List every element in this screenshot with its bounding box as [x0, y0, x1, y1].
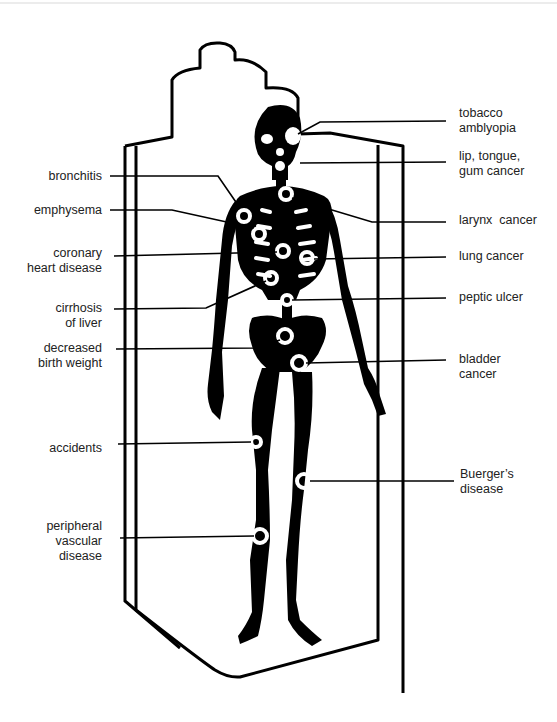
- label-line: lip, tongue,: [459, 149, 524, 164]
- label-tobacco-amblyopia: tobacco amblyopia: [459, 106, 516, 136]
- label-larynx-cancer: larynx cancer: [459, 213, 537, 228]
- label-coronary-heart-disease: coronary heart disease: [27, 246, 102, 276]
- label-line: emphysema: [34, 203, 102, 218]
- label-line: disease: [460, 482, 514, 497]
- label-line: gum cancer: [459, 164, 524, 179]
- label-line: bladder: [459, 352, 501, 367]
- label-accidents: accidents: [49, 441, 102, 456]
- label-line: decreased: [38, 341, 102, 356]
- label-line: bronchitis: [49, 169, 103, 184]
- label-buergers-disease: Buerger’s disease: [460, 467, 514, 497]
- label-line: cancer: [459, 367, 501, 382]
- label-peptic-ulcer: peptic ulcer: [459, 290, 523, 305]
- label-lip-tongue-gum-cancer: lip, tongue, gum cancer: [459, 149, 524, 179]
- label-line: cirrhosis: [55, 301, 102, 316]
- label-line: tobacco: [459, 106, 516, 121]
- label-line: heart disease: [27, 261, 102, 276]
- label-cirrhosis-of-liver: cirrhosis of liver: [55, 301, 102, 331]
- label-line: disease: [46, 549, 102, 564]
- skeleton-silhouette: [208, 105, 387, 646]
- label-bladder-cancer: bladder cancer: [459, 352, 501, 382]
- label-line: accidents: [49, 441, 102, 456]
- label-emphysema: emphysema: [34, 203, 102, 218]
- label-lung-cancer: lung cancer: [459, 249, 524, 264]
- label-bronchitis: bronchitis: [49, 169, 103, 184]
- label-peripheral-vascular-disease: peripheral vascular disease: [46, 519, 102, 564]
- label-line: Buerger’s: [460, 467, 514, 482]
- label-line: peptic ulcer: [459, 290, 523, 305]
- label-line: coronary: [27, 246, 102, 261]
- leader-lines-right: [292, 121, 454, 481]
- label-line: lung cancer: [459, 249, 524, 264]
- label-line: peripheral: [46, 519, 102, 534]
- label-decreased-birth-weight: decreased birth weight: [38, 341, 102, 371]
- label-line: of liver: [55, 316, 102, 331]
- label-line: amblyopia: [459, 121, 516, 136]
- label-line: larynx cancer: [459, 213, 537, 228]
- label-line: vascular: [46, 534, 102, 549]
- cigarette-pack-left-side: [125, 146, 180, 648]
- label-line: birth weight: [38, 356, 102, 371]
